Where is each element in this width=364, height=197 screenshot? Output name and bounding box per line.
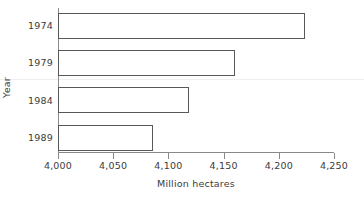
- bar-1989: [58, 125, 153, 151]
- x-tick-label-4250: 4,250: [320, 160, 348, 171]
- y-tick-label-1984: 1984: [28, 95, 53, 106]
- x-tick-4150: [224, 153, 225, 159]
- x-tick-4200: [279, 153, 280, 159]
- bar-chart: Year 1974 1979 1984 1989 4,000 4,050 4,1…: [0, 0, 364, 197]
- x-tick-label-4150: 4,150: [209, 160, 237, 171]
- bar-1984: [58, 87, 189, 113]
- x-tick-4050: [113, 153, 114, 159]
- bar-1974: [58, 13, 305, 39]
- y-tick-label-1989: 1989: [28, 132, 53, 143]
- x-tick-label-4000: 4,000: [44, 160, 72, 171]
- x-tick-label-4200: 4,200: [265, 160, 293, 171]
- x-tick-4100: [168, 153, 169, 159]
- bar-1979: [58, 50, 235, 76]
- x-axis-title: Million hectares: [58, 178, 334, 189]
- x-tick-4000: [58, 153, 59, 159]
- y-tick-label-1974: 1974: [28, 20, 53, 31]
- x-tick-label-4050: 4,050: [99, 160, 127, 171]
- y-tick-label-1979: 1979: [28, 57, 53, 68]
- x-tick-4250: [334, 153, 335, 159]
- plot-area: [58, 8, 334, 153]
- x-tick-label-4100: 4,100: [154, 160, 182, 171]
